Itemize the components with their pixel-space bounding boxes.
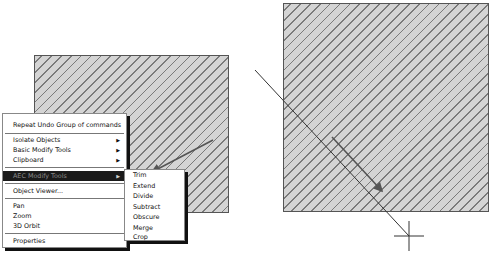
- menu-item-label: Pan: [13, 202, 25, 210]
- submenu-arrow-icon: ▶: [116, 171, 120, 181]
- menu-item-label: Clipboard: [13, 156, 44, 164]
- menu-item-label: Basic Modify Tools: [13, 146, 71, 154]
- submenu-item-label: Merge: [133, 224, 153, 232]
- menu-item-isolate-objects[interactable]: Isolate Objects ▶: [3, 135, 126, 145]
- submenu-item-label: Trim: [133, 171, 147, 179]
- menu-item-label: Zoom: [13, 212, 31, 220]
- menu-item-label: AEC Modify Tools: [13, 172, 67, 180]
- submenu-item-subtract[interactable]: Subtract: [125, 202, 184, 212]
- menu-separator: [5, 233, 124, 234]
- menu-item-label: Isolate Objects: [13, 136, 60, 144]
- menu-separator: [5, 198, 124, 199]
- submenu-item-extend[interactable]: Extend: [125, 181, 184, 191]
- submenu-arrow-icon: ▶: [116, 145, 120, 155]
- menu-separator: [5, 133, 124, 134]
- menu-item-basic-modify-tools[interactable]: Basic Modify Tools ▶: [3, 145, 126, 155]
- submenu-item-obscure[interactable]: Obscure: [125, 212, 184, 222]
- submenu-item-label: Extend: [133, 182, 155, 190]
- menu-item-aec-modify-tools[interactable]: AEC Modify Tools ▶: [3, 171, 126, 181]
- aec-modify-tools-submenu: Trim Extend Divide Subtract Obscure Merg…: [124, 169, 185, 241]
- submenu-arrow-icon: ▶: [116, 155, 120, 165]
- submenu-item-label: Subtract: [133, 203, 160, 211]
- menu-item-label: Properties: [13, 237, 45, 245]
- submenu-item-label: Divide: [133, 192, 153, 200]
- menu-separator: [5, 183, 124, 184]
- menu-item-3d-orbit[interactable]: 3D Orbit: [3, 221, 126, 231]
- menu-item-object-viewer[interactable]: Object Viewer...: [3, 186, 126, 196]
- menu-separator: [5, 167, 124, 168]
- menu-item-label: Repeat Undo Group of commands: [13, 121, 121, 129]
- menu-item-properties[interactable]: Properties: [3, 236, 126, 246]
- menu-item-clipboard[interactable]: Clipboard ▶: [3, 155, 126, 165]
- menu-item-label: Object Viewer...: [13, 187, 63, 195]
- submenu-arrow-icon: ▶: [116, 135, 120, 145]
- submenu-item-trim[interactable]: Trim: [125, 170, 184, 180]
- submenu-item-merge[interactable]: Merge: [125, 223, 184, 233]
- hatched-square-right[interactable]: [283, 3, 489, 212]
- submenu-item-divide[interactable]: Divide: [125, 191, 184, 201]
- crosshair-cursor-icon: [394, 221, 424, 251]
- menu-item-zoom[interactable]: Zoom: [3, 211, 126, 221]
- menu-item-pan[interactable]: Pan: [3, 201, 126, 211]
- menu-item-label: 3D Orbit: [13, 222, 40, 230]
- submenu-item-crop[interactable]: Crop: [125, 232, 184, 242]
- submenu-item-label: Crop: [133, 233, 148, 241]
- submenu-item-label: Obscure: [133, 213, 159, 221]
- menu-item-repeat-undo[interactable]: Repeat Undo Group of commands: [3, 120, 126, 130]
- context-menu: Repeat Undo Group of commands Isolate Ob…: [2, 113, 127, 248]
